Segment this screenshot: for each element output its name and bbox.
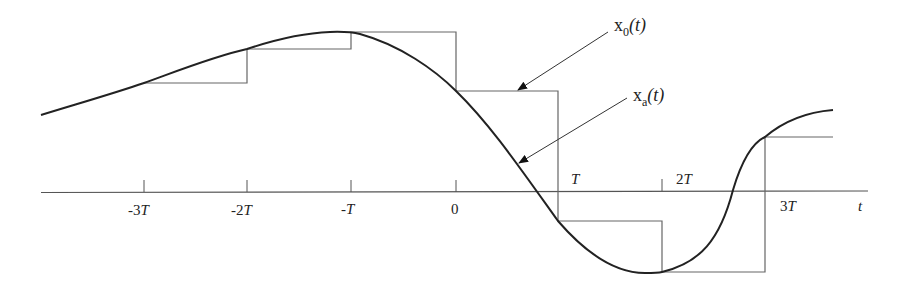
analog-signal-pointer-arrow bbox=[519, 98, 627, 163]
analog-signal-label: xa(t) bbox=[633, 85, 664, 109]
axis-label-t: t bbox=[858, 198, 863, 214]
tick-label-T: T bbox=[571, 171, 581, 187]
tick-label-minus-2T: -2T bbox=[231, 202, 254, 218]
held-signal-label: x0(t) bbox=[614, 15, 646, 39]
tick-label-minus-T: -T bbox=[341, 201, 356, 217]
time-axis bbox=[41, 191, 868, 193]
tick-label-0: 0 bbox=[451, 201, 459, 217]
analog-signal-curve bbox=[41, 32, 833, 273]
tick-label-2T: 2T bbox=[676, 171, 694, 187]
tick-label-3T: 3T bbox=[780, 198, 798, 214]
zoh-diagram: x0(t) xa(t) -3T -2T -T 0 T 2T 3T t bbox=[0, 0, 901, 295]
axis-ticks bbox=[144, 179, 662, 192]
held-signal-staircase bbox=[144, 32, 833, 272]
held-signal-pointer-arrow bbox=[518, 32, 608, 90]
tick-label-minus-3T: -3T bbox=[128, 202, 151, 218]
